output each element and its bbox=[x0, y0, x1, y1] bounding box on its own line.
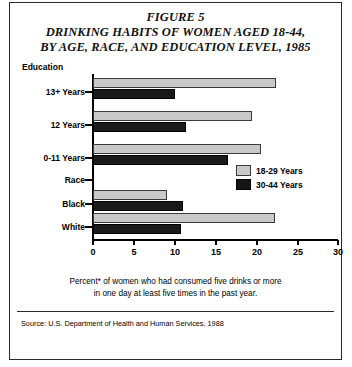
x-tick-10 bbox=[174, 240, 176, 245]
x-tick-15 bbox=[215, 240, 217, 245]
figure-frame: FIGURE 5 DRINKING HABITS OF WOMEN AGED 1… bbox=[9, 2, 342, 360]
chart-footnote: Percent* of women who had consumed five … bbox=[10, 276, 341, 299]
bar-12-years-18-29 bbox=[93, 111, 252, 121]
x-tick-0 bbox=[92, 240, 94, 245]
x-tick-5 bbox=[133, 240, 135, 245]
x-label-20: 20 bbox=[252, 247, 262, 257]
x-label-25: 25 bbox=[293, 247, 303, 257]
x-label-0: 0 bbox=[90, 247, 95, 257]
chart-plot-area: Education 13+ Years 12 Years 0-11 Years bbox=[10, 62, 341, 262]
figure-title-line-2: DRINKING HABITS OF WOMEN AGED 18-44, bbox=[10, 25, 341, 40]
source-note: Source: U.S. Department of Health and Hu… bbox=[10, 319, 341, 328]
bar-13-plus-years-30-44 bbox=[93, 89, 175, 99]
bar-white-30-44 bbox=[93, 224, 181, 234]
chart-legend: 18-29 Years 30-44 Years bbox=[236, 165, 336, 193]
figure-title: FIGURE 5 DRINKING HABITS OF WOMEN AGED 1… bbox=[10, 3, 341, 55]
category-tick-black bbox=[85, 203, 92, 205]
x-tick-25 bbox=[297, 240, 299, 245]
source-divider bbox=[17, 311, 334, 312]
category-label-12-years: 12 Years bbox=[13, 120, 85, 130]
category-tick-race bbox=[85, 179, 92, 181]
chart-footnote-line-1: Percent* of women who had consumed five … bbox=[38, 276, 313, 288]
bar-0-11-years-18-29 bbox=[93, 144, 261, 154]
bar-12-years-30-44 bbox=[93, 122, 186, 132]
category-tick-13-plus-years bbox=[85, 91, 92, 93]
category-tick-0-11-years bbox=[85, 157, 92, 159]
legend-label-30-44: 30-44 Years bbox=[256, 180, 303, 190]
category-label-white: White bbox=[13, 222, 85, 232]
x-label-10: 10 bbox=[170, 247, 180, 257]
category-label-black: Black bbox=[13, 199, 85, 209]
legend-item-30-44: 30-44 Years bbox=[236, 179, 336, 190]
legend-item-18-29: 18-29 Years bbox=[236, 165, 336, 176]
category-label-13-plus-years: 13+ Years bbox=[13, 87, 85, 97]
bar-black-18-29 bbox=[93, 190, 167, 200]
x-label-30: 30 bbox=[333, 247, 343, 257]
chart-footnote-line-2: in one day at least five times in the pa… bbox=[38, 288, 313, 300]
legend-label-18-29: 18-29 Years bbox=[256, 166, 303, 176]
bar-white-18-29 bbox=[93, 213, 275, 223]
group-header-education: Education bbox=[22, 62, 63, 72]
bar-black-30-44 bbox=[93, 201, 183, 211]
legend-swatch-18-29-icon bbox=[236, 165, 251, 176]
x-tick-20 bbox=[256, 240, 258, 245]
legend-swatch-30-44-icon bbox=[236, 179, 251, 190]
group-header-race: Race bbox=[13, 175, 85, 185]
figure-title-line-1: FIGURE 5 bbox=[10, 10, 341, 25]
x-label-5: 5 bbox=[131, 247, 136, 257]
figure-title-line-3: BY AGE, RACE, AND EDUCATION LEVEL, 1985 bbox=[10, 40, 341, 55]
x-tick-30 bbox=[337, 240, 339, 245]
category-tick-12-years bbox=[85, 124, 92, 126]
category-label-0-11-years: 0-11 Years bbox=[13, 153, 85, 163]
category-tick-white bbox=[85, 226, 92, 228]
bar-0-11-years-30-44 bbox=[93, 155, 228, 165]
bar-13-plus-years-18-29 bbox=[93, 78, 276, 88]
x-label-15: 15 bbox=[211, 247, 221, 257]
